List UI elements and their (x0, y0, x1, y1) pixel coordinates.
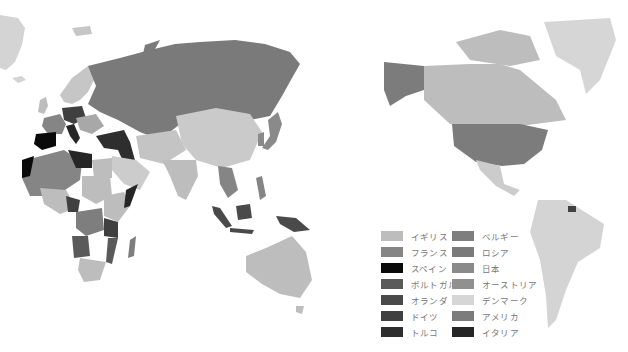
legend-label: フランス (411, 246, 448, 258)
legend-item-britain: イギリス (381, 229, 448, 243)
legend-swatch (452, 311, 474, 321)
legend-swatch (452, 263, 474, 273)
region-italy (66, 124, 80, 144)
region-france (42, 114, 66, 134)
region-south-africa (78, 258, 106, 282)
legend-label: オーストリア (482, 278, 537, 290)
legend-label: アメリカ (482, 310, 519, 322)
legend-label: オランダ (411, 294, 448, 306)
region-australia (246, 236, 312, 298)
region-egypt (92, 158, 112, 178)
region-madagascar (128, 236, 136, 258)
legend-swatch (381, 263, 403, 273)
legend-swatch (452, 295, 474, 305)
legend-item-turkey: トルコ (381, 325, 439, 339)
region-tasmania (296, 306, 304, 314)
legend-label: トルコ (411, 326, 439, 338)
region-korea (258, 132, 264, 146)
region-angola (72, 236, 90, 258)
region-greenland (544, 18, 616, 94)
legend-item-germany: ドイツ (381, 309, 439, 323)
map-legend: イギリス フランス スペイン ポルトガル オランダ ドイツ トルコ ベルギー ロ… (381, 229, 531, 341)
legend-item-usa: アメリカ (452, 309, 519, 323)
legend-label: スペイン (411, 262, 447, 274)
legend-swatch (452, 247, 474, 257)
legend-swatch (381, 279, 403, 289)
region-cameroon (66, 196, 80, 212)
region-spain (34, 132, 56, 150)
legend-item-belgium: ベルギー (452, 229, 519, 243)
legend-label: デンマーク (482, 294, 528, 306)
region-usa (452, 124, 548, 166)
legend-swatch (381, 327, 403, 337)
region-japan (262, 112, 282, 150)
legend-swatch (381, 231, 403, 241)
region-persia (136, 130, 186, 164)
region-south-america (530, 200, 604, 328)
legend-item-france: フランス (381, 245, 448, 259)
region-borneo (236, 204, 252, 220)
region-sumatra (212, 206, 232, 228)
legend-item-spain: スペイン (381, 261, 447, 275)
legend-swatch (452, 279, 474, 289)
region-philippines (256, 176, 266, 200)
region-iceland (12, 76, 26, 83)
legend-swatch (452, 231, 474, 241)
legend-swatch (452, 327, 474, 337)
legend-label: ベルギー (482, 230, 519, 242)
legend-label: ポルトガル (411, 278, 457, 290)
world-map (0, 0, 628, 352)
region-india (162, 160, 198, 200)
region-new-guinea (276, 216, 310, 232)
legend-label: ロシア (482, 246, 510, 258)
legend-item-denmark: デンマーク (452, 293, 528, 307)
region-britain (38, 97, 48, 114)
region-arctic-canada (456, 30, 540, 66)
legend-label: イタリア (482, 326, 519, 338)
region-somalia (124, 184, 138, 208)
legend-item-italy: イタリア (452, 325, 519, 339)
region-mozambique (106, 238, 118, 264)
legend-item-netherlands: オランダ (381, 293, 448, 307)
legend-swatch (381, 311, 403, 321)
legend-swatch (381, 247, 403, 257)
legend-item-austria: オーストリア (452, 277, 537, 291)
region-indochina (218, 166, 238, 198)
legend-label: ドイツ (411, 310, 439, 322)
region-canada (424, 64, 566, 126)
legend-label: 日本 (482, 262, 500, 274)
legend-item-portugal: ポルトガル (381, 277, 457, 291)
region-congo (76, 208, 104, 236)
region-mexico (476, 160, 520, 196)
region-svalbard (72, 26, 92, 36)
region-arabia (112, 156, 150, 190)
region-guiana (568, 206, 576, 212)
legend-label: イギリス (411, 230, 448, 242)
legend-item-russia: ロシア (452, 245, 510, 259)
region-java (230, 228, 254, 234)
region-alaska (384, 62, 424, 106)
legend-swatch (381, 295, 403, 305)
region-china (176, 108, 262, 168)
legend-item-japan: 日本 (452, 261, 500, 275)
region-greenland-west (0, 15, 25, 70)
